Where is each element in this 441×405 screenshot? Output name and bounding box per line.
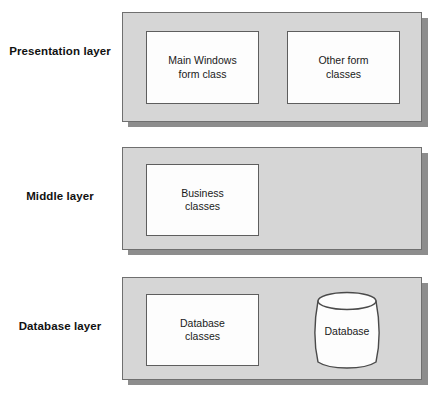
layer-middle: Middle layer Business classes (0, 135, 441, 265)
database-cylinder: Database (312, 288, 382, 372)
architecture-diagram: Presentation layer Main Windows form cla… (0, 0, 441, 405)
box-database-classes: Database classes (146, 294, 259, 366)
panel-middle: Business classes (122, 147, 422, 250)
box-business-classes: Business classes (146, 164, 259, 236)
box-label-database-classes: Database classes (180, 317, 225, 344)
database-cylinder-label: Database (312, 325, 382, 339)
box-label-main-windows-form-class: Main Windows form class (168, 54, 236, 81)
layer-label-middle: Middle layer (2, 189, 118, 203)
layer-database: Database layer Database classes Database (0, 265, 441, 405)
panel-database: Database classes Database (122, 277, 422, 380)
box-label-other-form-classes: Other form classes (318, 54, 368, 81)
box-other-form-classes: Other form classes (287, 31, 400, 104)
layer-label-database: Database layer (2, 319, 118, 333)
box-label-business-classes: Business classes (181, 187, 224, 214)
layer-presentation: Presentation layer Main Windows form cla… (0, 0, 441, 135)
layer-label-presentation: Presentation layer (2, 44, 118, 58)
panel-presentation: Main Windows form class Other form class… (122, 12, 422, 122)
box-main-windows-form-class: Main Windows form class (146, 31, 259, 104)
